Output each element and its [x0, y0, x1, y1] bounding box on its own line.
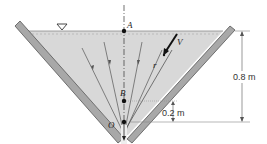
- label-O: O: [108, 120, 115, 130]
- dim-0.2-arrow-up-icon: [171, 101, 175, 105]
- free-surface-triangle-icon: [57, 24, 67, 30]
- funnel-diagram: V r A B O 0.8 m 0.2 m: [0, 0, 267, 144]
- label-B: B: [120, 88, 126, 98]
- label-r: r: [153, 60, 157, 70]
- dim-arrow-down-icon: [240, 117, 244, 122]
- dim-0.2-label: 0.2 m: [162, 108, 185, 118]
- dim-0.2-arrow-down-icon: [171, 118, 175, 122]
- dim-0.8-label: 0.8 m: [233, 72, 256, 82]
- label-A: A: [126, 20, 133, 30]
- point-O: [122, 120, 126, 124]
- point-A: [122, 29, 126, 33]
- fluid-region: [28, 31, 223, 135]
- point-B: [122, 99, 126, 103]
- dim-arrow-up-icon: [240, 31, 244, 36]
